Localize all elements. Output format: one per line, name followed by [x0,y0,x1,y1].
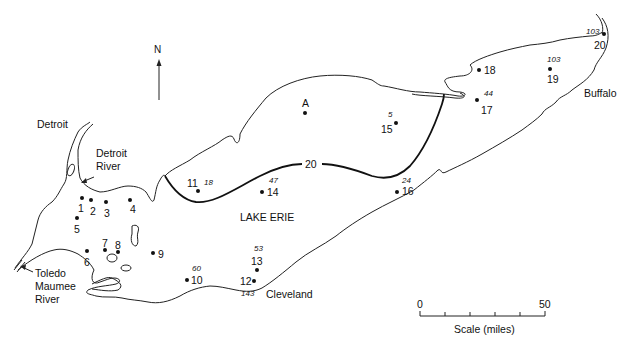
station-label: 2 [90,206,96,217]
scale-max-label: 50 [539,299,551,310]
station-label: 17 [481,105,493,116]
station-marker [89,198,93,202]
station-depth-label: 44 [484,90,493,98]
station-label: 6 [84,257,90,268]
station-marker [104,200,108,204]
station-label: 4 [130,204,136,215]
north-arrow-icon [157,59,162,100]
station-label: 1 [78,203,84,214]
west-shoreline [15,122,90,268]
station-marker [128,198,132,202]
station-label: 10 [191,275,203,286]
north-label: N [154,45,161,55]
station-depth-label: 24 [402,177,411,185]
station-marker [475,98,479,102]
place-cleveland: Cleveland [266,289,313,300]
station-label: 15 [381,124,393,135]
station-marker [548,67,552,71]
scale-title: Scale (miles) [454,324,515,335]
place-detroit-river-1: Detroit [96,148,127,159]
station-marker [255,268,259,272]
station-marker [85,249,89,253]
station-label: 9 [158,249,164,260]
station-label: 11 [187,178,198,189]
station-depth-label: 18 [204,179,213,187]
place-buffalo: Buffalo [584,88,617,99]
station-depth-label: 5 [388,111,392,119]
place-toledo: Toledo [35,268,66,279]
station-marker [196,189,200,193]
station-label: 8 [115,240,121,251]
shoreline-drawing [0,0,632,347]
station-marker [260,190,264,194]
place-maumee-river: River [35,294,60,305]
scale-min-label: 0 [417,299,423,310]
station-label: 20 [594,40,606,51]
station-marker [75,216,79,220]
station-marker [395,190,399,194]
place-detroit-river-2: River [96,161,121,172]
station-label: 13 [251,256,263,267]
station-label: 3 [104,208,110,219]
station-depth-label: 60 [192,265,201,273]
station-marker [394,121,398,125]
station-depth-label: 47 [269,177,278,185]
station-marker [602,32,606,36]
contour-label: 20 [305,159,317,170]
lake-name: LAKE ERIE [240,212,294,223]
station-depth-label: 103 [547,56,560,64]
station-label: 19 [547,74,559,85]
station-marker [151,251,155,255]
reference-point-marker [303,111,307,115]
station-marker [252,279,256,283]
station-label: 5 [74,224,80,235]
station-label: 18 [484,65,496,76]
station-marker [80,196,84,200]
pelee-island [131,225,138,246]
station-label: 16 [402,186,414,197]
place-maumee: Maumee [35,281,76,292]
station-label: 7 [102,238,108,249]
scale-bar [420,311,545,316]
station-label: 14 [267,187,279,198]
station-label: 12 [240,276,252,287]
station-marker [185,278,189,282]
north-shoreline [165,32,602,176]
lake-erie-map: N LAKE ERIE Detroit Detroit River Toledo… [0,0,632,347]
station-depth-label: 143 [241,290,254,298]
station-marker [477,68,481,72]
detroit-river-east-bank [78,124,165,201]
station-depth-label: 103 [586,28,599,36]
place-detroit: Detroit [37,119,68,130]
station-depth-label: 53 [254,245,263,253]
reference-point-label: A [302,98,309,109]
